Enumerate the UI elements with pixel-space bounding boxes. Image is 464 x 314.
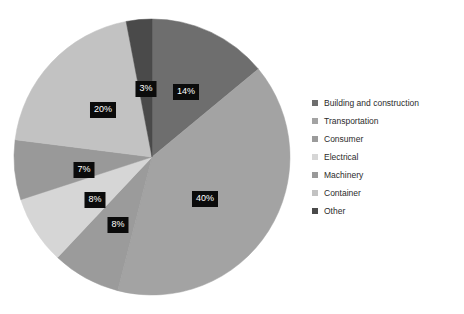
legend-item[interactable]: Consumer (312, 130, 462, 148)
legend-color-swatch-icon (312, 172, 318, 178)
legend-color-swatch-icon (312, 154, 318, 160)
chart-legend: Building and constructionTransportationC… (312, 94, 462, 220)
legend-item-label: Machinery (324, 171, 363, 180)
legend-item-label: Container (324, 189, 361, 198)
pie-chart-figure: 14%40%8%8%7%20%3% Building and construct… (0, 0, 464, 314)
legend-color-swatch-icon (312, 100, 318, 106)
pie-slice-value-label: 8% (84, 192, 105, 208)
pie-chart-plot-area: 14%40%8%8%7%20%3% (0, 0, 300, 314)
pie-slice-value-label: 14% (173, 84, 199, 100)
legend-item[interactable]: Electrical (312, 148, 462, 166)
legend-item[interactable]: Container (312, 184, 462, 202)
legend-color-swatch-icon (312, 208, 318, 214)
legend-item-label: Transportation (324, 117, 379, 126)
pie-slice-group (14, 19, 290, 295)
legend-item-label: Consumer (324, 135, 363, 144)
legend-color-swatch-icon (312, 136, 318, 142)
legend-item[interactable]: Transportation (312, 112, 462, 130)
pie-slice-value-label: 20% (90, 102, 116, 118)
pie-slice-value-label: 7% (73, 162, 94, 178)
legend-item[interactable]: Machinery (312, 166, 462, 184)
pie-slice-value-label: 8% (107, 217, 128, 233)
pie-chart-svg (0, 0, 300, 314)
legend-item-label: Electrical (324, 153, 358, 162)
pie-slice-value-label: 40% (192, 191, 218, 207)
pie-slice-value-label: 3% (135, 81, 156, 97)
legend-item[interactable]: Other (312, 202, 462, 220)
legend-color-swatch-icon (312, 118, 318, 124)
legend-item[interactable]: Building and construction (312, 94, 462, 112)
legend-item-label: Other (324, 207, 345, 216)
legend-color-swatch-icon (312, 190, 318, 196)
legend-item-label: Building and construction (324, 99, 419, 108)
